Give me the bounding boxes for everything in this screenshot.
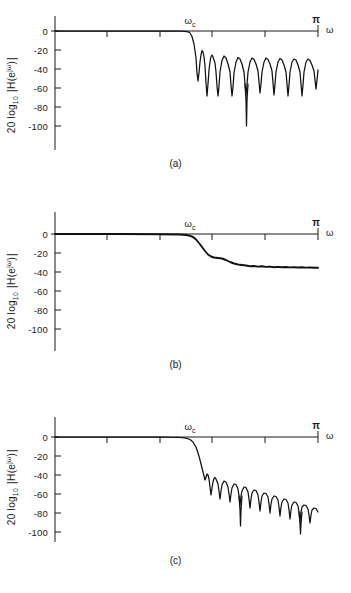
y-tick-label-3-b: -60 [34, 286, 48, 297]
y-tick-label-1-b: -20 [34, 248, 48, 259]
x-axis-label-c: ω [326, 430, 334, 441]
cutoff-label-b: ωc [185, 218, 196, 231]
cutoff-label-c: ωc [185, 421, 196, 434]
y-tick-label-4-a: -80 [34, 102, 48, 113]
filter-response-figure: 20 log10 H(ejω) 0 -20 -40 -60 -80 [0, 0, 351, 593]
y-tick-label-4-c: -80 [34, 508, 48, 519]
y-ticks-a [51, 31, 61, 126]
y-ticks-c [51, 437, 61, 532]
y-tick-label-2-c: -40 [34, 470, 48, 481]
y-tick-label-2-a: -40 [34, 64, 48, 75]
x-axis-label-b: ω [326, 227, 334, 238]
y-tick-label-2-b: -40 [34, 267, 48, 278]
y-tick-label-0-a: 0 [43, 26, 48, 37]
y-ticks-b [51, 234, 61, 329]
response-curve-c [55, 437, 318, 523]
response-curve-b [55, 234, 318, 268]
y-tick-label-3-a: -60 [34, 83, 48, 94]
cutoff-label-a: ωc [185, 15, 196, 28]
y-tick-label-5-b: -100 [28, 324, 48, 335]
panel-c: 20 log10 H(ejω) 0 -20 -40 -60 -80 -100 [0, 392, 351, 582]
pi-label-c: π [312, 420, 320, 431]
caption-c: (c) [0, 555, 351, 566]
x-axis-label-a: ω [326, 24, 334, 35]
plot-b: 0 -20 -40 -60 -80 -100 ωc π ω [0, 196, 351, 386]
pi-label-a: π [312, 14, 320, 25]
caption-a: (a) [0, 158, 351, 169]
pi-label-b: π [312, 217, 320, 228]
y-tick-label-0-b: 0 [43, 229, 48, 240]
plot-c: 0 -20 -40 -60 -80 -100 ωc π ω [0, 392, 351, 582]
response-curve-a [55, 31, 318, 96]
y-tick-label-3-c: -60 [34, 489, 48, 500]
y-tick-label-1-a: -20 [34, 45, 48, 56]
y-tick-label-1-c: -20 [34, 451, 48, 462]
y-tick-label-4-b: -80 [34, 305, 48, 316]
panel-a: 20 log10 H(ejω) 0 -20 -40 -60 -80 [0, 0, 351, 190]
caption-b: (b) [0, 359, 351, 370]
panel-b: 20 log10 H(ejω) 0 -20 -40 -60 -80 -100 [0, 196, 351, 386]
y-tick-label-0-c: 0 [43, 432, 48, 443]
y-tick-label-5-a: -100 [28, 121, 48, 132]
y-tick-label-5-c: -100 [28, 527, 48, 538]
